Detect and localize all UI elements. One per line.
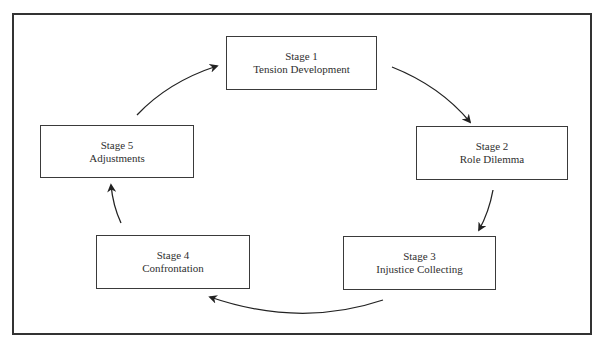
stage-4-title: Confrontation (142, 262, 204, 275)
stage-2-box: Stage 2 Role Dilemma (416, 126, 568, 180)
stage-2-number: Stage 2 (476, 140, 509, 153)
stage-4-number: Stage 4 (157, 249, 190, 262)
stage-1-number: Stage 1 (285, 50, 318, 63)
stage-3-number: Stage 3 (403, 250, 436, 263)
stage-4-box: Stage 4 Confrontation (96, 235, 250, 289)
stage-1-title: Tension Development (253, 63, 350, 76)
stage-3-title: Injustice Collecting (376, 263, 462, 276)
stage-3-box: Stage 3 Injustice Collecting (343, 236, 496, 290)
stage-5-box: Stage 5 Adjustments (40, 125, 194, 178)
stage-2-title: Role Dilemma (460, 153, 524, 166)
stage-5-title: Adjustments (89, 152, 145, 165)
stage-1-box: Stage 1 Tension Development (226, 36, 377, 90)
stage-5-number: Stage 5 (101, 139, 134, 152)
